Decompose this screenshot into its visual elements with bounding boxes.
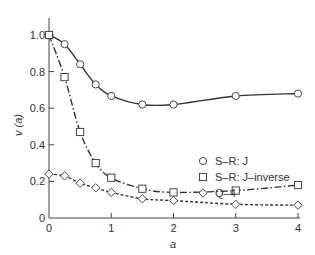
data-point-diamond (91, 184, 99, 192)
x-axis-label: a (170, 238, 176, 250)
legend-label: Q–4 (215, 187, 236, 199)
y-tick-label: 0.4 (30, 139, 45, 151)
chart: 0123400.20.40.60.81.0 a v (a) S–R: JS–R:… (0, 0, 315, 255)
data-point-square (45, 31, 52, 38)
y-axis-label: v (a) (12, 114, 24, 136)
y-tick-label: 0.6 (30, 102, 45, 114)
data-point-square (294, 181, 301, 188)
data-point-square (139, 185, 146, 192)
data-point-square (61, 73, 68, 80)
series-line-2 (49, 35, 298, 192)
ticks: 0123400.20.40.60.81.0 (30, 29, 301, 234)
x-tick-label: 1 (108, 222, 114, 234)
data-point-diamond (232, 200, 240, 208)
legend-label: S–R: J (215, 155, 248, 167)
legend-marker-circle (199, 157, 206, 164)
data-point-circle (139, 101, 146, 108)
data-point-circle (170, 101, 177, 108)
data-point-diamond (45, 170, 53, 178)
legend: S–R: JS–R: J–inverseQ–4 (199, 155, 290, 199)
data-point-diamond (169, 196, 177, 204)
x-tick-label: 2 (170, 222, 176, 234)
legend-label: S–R: J–inverse (215, 171, 290, 183)
y-tick-label: 0 (39, 212, 45, 224)
x-tick-label: 0 (46, 222, 52, 234)
data-point-diamond (60, 172, 68, 180)
data-point-square (108, 174, 115, 181)
y-tick-label: 0.8 (30, 66, 45, 78)
legend-item: Q–4 (199, 187, 236, 199)
legend-item: S–R: J–inverse (199, 171, 289, 183)
data-point-square (77, 128, 84, 135)
legend-marker-diamond (199, 189, 207, 197)
data-point-diamond (76, 179, 84, 187)
data-point-circle (92, 81, 99, 88)
x-tick-label: 3 (233, 222, 239, 234)
data-point-circle (61, 41, 68, 48)
data-point-diamond (138, 195, 146, 203)
y-tick-label: 1.0 (30, 29, 45, 41)
data-point-circle (108, 92, 115, 99)
legend-item: S–R: J (199, 155, 248, 167)
data-point-square (92, 160, 99, 167)
data-point-diamond (107, 188, 115, 196)
legend-marker-square (199, 173, 206, 180)
data-point-square (170, 189, 177, 196)
data-point-circle (232, 92, 239, 99)
x-tick-label: 4 (295, 222, 301, 234)
series-line-1 (49, 35, 298, 106)
y-tick-label: 0.2 (30, 175, 45, 187)
data-point-circle (294, 90, 301, 97)
data-point-circle (77, 61, 84, 68)
data-point-diamond (294, 201, 302, 209)
